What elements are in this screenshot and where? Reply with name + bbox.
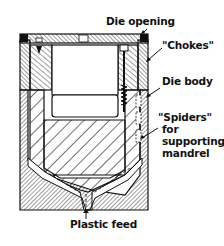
label-die-opening: Die opening bbox=[106, 16, 175, 27]
label-spiders-supporting: supporting bbox=[162, 136, 224, 147]
extrusion-die-cross-section bbox=[0, 0, 224, 246]
label-spiders-for: for bbox=[162, 124, 178, 135]
label-spiders: "Spiders" bbox=[158, 112, 212, 123]
central-bore bbox=[52, 45, 118, 117]
spiders bbox=[136, 95, 141, 142]
label-spiders-mandrel: mandrel bbox=[162, 148, 210, 159]
label-die-body: Die body bbox=[162, 76, 213, 87]
label-plastic-feed: Plastic feed bbox=[70, 219, 137, 230]
label-chokes: "Chokes" bbox=[162, 40, 214, 51]
